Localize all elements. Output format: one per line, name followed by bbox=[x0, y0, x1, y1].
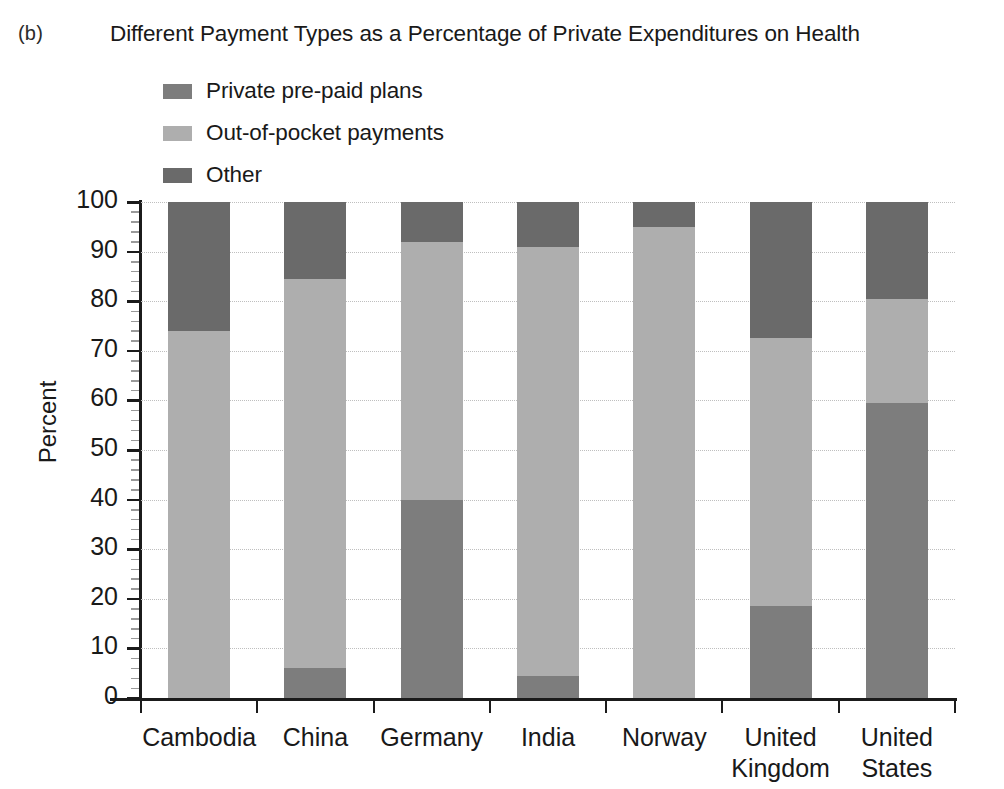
y-axis-tick bbox=[127, 598, 140, 601]
y-axis-minor-tick bbox=[131, 211, 139, 213]
y-axis-minor-tick bbox=[131, 678, 139, 680]
bar-segment[interactable] bbox=[750, 202, 812, 338]
bar-group[interactable] bbox=[168, 202, 230, 698]
y-axis-minor-tick bbox=[131, 569, 139, 571]
y-axis-minor-tick bbox=[131, 410, 139, 412]
x-axis-label: Norway bbox=[606, 722, 722, 753]
y-axis-minor-tick bbox=[131, 489, 139, 491]
y-axis-minor-tick bbox=[131, 638, 139, 640]
x-axis-tick bbox=[373, 700, 375, 713]
bar-segment[interactable] bbox=[633, 227, 695, 698]
bar-segment[interactable] bbox=[517, 202, 579, 247]
bar-group[interactable] bbox=[866, 202, 928, 698]
y-axis-minor-tick bbox=[131, 459, 139, 461]
bar-segment[interactable] bbox=[401, 242, 463, 500]
y-axis-minor-tick bbox=[131, 608, 139, 610]
bar-segment[interactable] bbox=[284, 279, 346, 668]
y-axis-tick bbox=[127, 300, 140, 303]
y-axis-tick bbox=[127, 548, 140, 551]
y-axis-tick bbox=[127, 350, 140, 353]
y-axis-minor-tick bbox=[131, 430, 139, 432]
x-axis-label: India bbox=[490, 722, 606, 753]
bar-segment[interactable] bbox=[168, 202, 230, 331]
y-axis-minor-tick bbox=[131, 628, 139, 630]
y-axis-minor-tick bbox=[131, 519, 139, 521]
y-axis-minor-tick bbox=[131, 688, 139, 690]
bar-group[interactable] bbox=[633, 202, 695, 698]
bar-segment[interactable] bbox=[401, 202, 463, 242]
bar-group[interactable] bbox=[750, 202, 812, 698]
bar-segment[interactable] bbox=[866, 299, 928, 403]
y-axis-tick bbox=[127, 697, 140, 700]
bar-segment[interactable] bbox=[517, 676, 579, 698]
bar-segment[interactable] bbox=[866, 403, 928, 698]
x-axis-tick bbox=[489, 700, 491, 713]
y-axis-tick bbox=[127, 251, 140, 254]
y-axis-minor-tick bbox=[131, 539, 139, 541]
bar-group[interactable] bbox=[517, 202, 579, 698]
y-axis-minor-tick bbox=[131, 618, 139, 620]
y-axis-minor-tick bbox=[131, 321, 139, 323]
y-axis-tick bbox=[127, 201, 140, 204]
bar-segment[interactable] bbox=[866, 202, 928, 299]
x-axis-label: UnitedKingdom bbox=[722, 722, 838, 784]
bar-segment[interactable] bbox=[284, 202, 346, 279]
y-axis-minor-tick bbox=[131, 231, 139, 233]
x-axis-tick bbox=[721, 700, 723, 713]
y-axis-minor-tick bbox=[131, 221, 139, 223]
y-axis-minor-tick bbox=[131, 588, 139, 590]
y-axis-minor-tick bbox=[131, 559, 139, 561]
x-axis-label: Germany bbox=[374, 722, 490, 753]
y-axis-minor-tick bbox=[131, 271, 139, 273]
y-axis-title: Percent bbox=[34, 352, 62, 492]
y-axis-minor-tick bbox=[131, 360, 139, 362]
y-axis-minor-tick bbox=[131, 330, 139, 332]
bar-segment[interactable] bbox=[168, 331, 230, 698]
x-axis-tick bbox=[256, 700, 258, 713]
y-axis-tick bbox=[127, 647, 140, 650]
x-axis-tick bbox=[605, 700, 607, 713]
chart-plot: Percent 0102030405060708090100 CambodiaC… bbox=[0, 0, 1004, 789]
x-axis-tick bbox=[140, 700, 142, 713]
y-axis-minor-tick bbox=[131, 658, 139, 660]
y-axis-minor-tick bbox=[131, 479, 139, 481]
x-axis-tick bbox=[838, 700, 840, 713]
x-axis-tick bbox=[954, 700, 956, 713]
y-axis-minor-tick bbox=[131, 509, 139, 511]
x-axis-label: China bbox=[257, 722, 373, 753]
bar-segment[interactable] bbox=[633, 202, 695, 227]
y-axis-minor-tick bbox=[131, 291, 139, 293]
y-axis-minor-tick bbox=[131, 440, 139, 442]
y-axis-tick bbox=[127, 449, 140, 452]
y-axis-minor-tick bbox=[131, 390, 139, 392]
bar-group[interactable] bbox=[401, 202, 463, 698]
bar-segment[interactable] bbox=[517, 247, 579, 676]
y-axis-minor-tick bbox=[131, 370, 139, 372]
y-axis-tick bbox=[127, 399, 140, 402]
x-axis-label: Cambodia bbox=[141, 722, 257, 753]
y-axis-minor-tick bbox=[131, 529, 139, 531]
bar-group[interactable] bbox=[284, 202, 346, 698]
y-axis-minor-tick bbox=[131, 469, 139, 471]
x-axis-line bbox=[110, 698, 957, 701]
y-axis-minor-tick bbox=[131, 241, 139, 243]
y-axis-minor-tick bbox=[131, 420, 139, 422]
y-axis-minor-tick bbox=[131, 380, 139, 382]
y-axis-minor-tick bbox=[131, 261, 139, 263]
y-axis-minor-tick bbox=[131, 281, 139, 283]
y-axis-minor-tick bbox=[131, 668, 139, 670]
bar-segment[interactable] bbox=[750, 606, 812, 698]
bars-container bbox=[141, 202, 955, 698]
y-axis-minor-tick bbox=[131, 578, 139, 580]
bar-segment[interactable] bbox=[750, 338, 812, 606]
bar-segment[interactable] bbox=[401, 500, 463, 698]
y-axis-minor-tick bbox=[131, 340, 139, 342]
y-axis-minor-tick bbox=[131, 311, 139, 313]
y-axis-tick bbox=[127, 499, 140, 502]
bar-segment[interactable] bbox=[284, 668, 346, 698]
x-axis-label: UnitedStates bbox=[839, 722, 955, 784]
